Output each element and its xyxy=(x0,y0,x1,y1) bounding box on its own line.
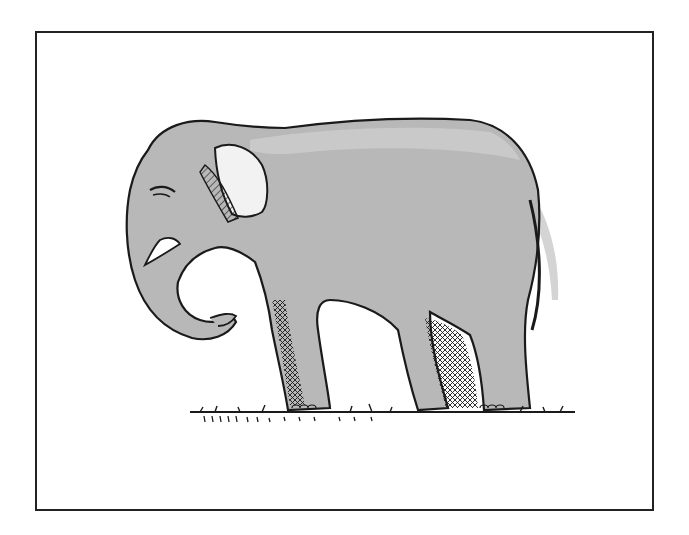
elephant-illustration xyxy=(0,0,689,535)
elephant-body-icon xyxy=(127,119,540,410)
